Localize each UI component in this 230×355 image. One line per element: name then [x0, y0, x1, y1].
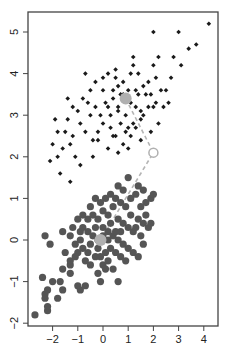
data-point — [121, 80, 126, 85]
data-point — [91, 155, 96, 160]
x-tick-label: −2 — [46, 333, 59, 345]
data-point — [164, 88, 169, 93]
x-tick-label: 0 — [100, 333, 106, 345]
data-point — [68, 179, 73, 184]
y-tick-label: 1 — [8, 195, 20, 201]
data-point — [123, 130, 128, 135]
data-point — [46, 241, 53, 248]
y-axis: −2−1012345 — [8, 29, 28, 330]
data-point — [151, 105, 156, 110]
data-point — [122, 257, 129, 264]
data-point — [72, 253, 79, 260]
data-point — [31, 311, 38, 318]
data-point — [60, 146, 65, 151]
data-point — [128, 134, 133, 139]
data-point — [87, 203, 94, 210]
data-point — [142, 211, 149, 218]
data-point — [103, 100, 108, 105]
data-point — [55, 130, 60, 135]
data-point — [101, 88, 106, 93]
data-point — [69, 224, 76, 231]
data-point — [135, 253, 142, 260]
data-point — [78, 163, 83, 168]
y-tick-label: 0 — [8, 237, 20, 243]
data-point — [194, 42, 199, 47]
data-point — [179, 63, 184, 68]
data-point — [109, 266, 116, 273]
data-point — [136, 71, 141, 76]
data-point — [92, 224, 99, 231]
x-tick-label: 2 — [150, 333, 156, 345]
data-point — [186, 46, 191, 51]
data-point — [136, 92, 141, 97]
data-point — [50, 142, 55, 147]
data-point — [44, 303, 51, 310]
data-point — [77, 228, 84, 235]
data-point — [131, 121, 136, 126]
data-point — [109, 203, 116, 210]
data-point — [98, 113, 103, 118]
data-point — [58, 171, 63, 176]
initial-point — [149, 148, 158, 157]
data-point — [93, 105, 98, 110]
data-point — [97, 278, 104, 285]
data-point — [44, 286, 51, 293]
data-point — [108, 113, 113, 118]
data-point — [139, 117, 144, 122]
data-point — [82, 257, 89, 264]
data-point — [140, 186, 147, 193]
data-point — [116, 84, 121, 89]
data-point — [59, 266, 66, 273]
data-point — [131, 55, 136, 60]
data-point — [41, 295, 48, 302]
data-point — [146, 80, 151, 85]
dashed-line — [100, 99, 153, 240]
data-point — [115, 278, 122, 285]
data-point — [67, 232, 74, 239]
data-point — [144, 92, 149, 97]
data-point — [106, 71, 111, 76]
centroid-upper — [120, 93, 132, 105]
data-point — [65, 96, 70, 101]
plot-frame — [28, 12, 218, 326]
data-point — [106, 146, 111, 151]
data-point — [87, 241, 94, 248]
data-point — [154, 100, 159, 105]
data-point — [147, 220, 154, 227]
data-point — [127, 211, 134, 218]
data-point — [139, 138, 144, 143]
data-point — [116, 105, 121, 110]
data-point — [169, 75, 174, 80]
data-point — [94, 270, 101, 277]
data-point — [88, 113, 93, 118]
data-point — [96, 138, 101, 143]
data-point — [121, 142, 126, 147]
data-point — [104, 211, 111, 218]
data-point — [116, 150, 121, 155]
x-tick-label: −1 — [72, 333, 85, 345]
data-point — [86, 100, 91, 105]
data-point — [70, 105, 75, 110]
data-point — [76, 109, 81, 114]
data-point — [176, 30, 181, 35]
data-point — [133, 105, 138, 110]
data-point — [171, 55, 176, 60]
data-point — [49, 278, 56, 285]
data-point — [96, 130, 101, 135]
data-point — [83, 71, 88, 76]
data-point — [57, 278, 64, 285]
data-point — [91, 138, 96, 143]
data-point — [94, 216, 101, 223]
data-point — [133, 125, 138, 130]
data-point — [101, 121, 106, 126]
y-tick-label: 2 — [8, 154, 20, 160]
data-point — [127, 195, 134, 202]
data-point — [53, 117, 58, 122]
y-tick-label: 4 — [8, 71, 20, 77]
data-point — [59, 228, 66, 235]
data-point — [151, 63, 156, 68]
data-point — [156, 55, 161, 60]
data-point — [92, 195, 99, 202]
data-point — [123, 113, 128, 118]
data-point — [132, 224, 139, 231]
